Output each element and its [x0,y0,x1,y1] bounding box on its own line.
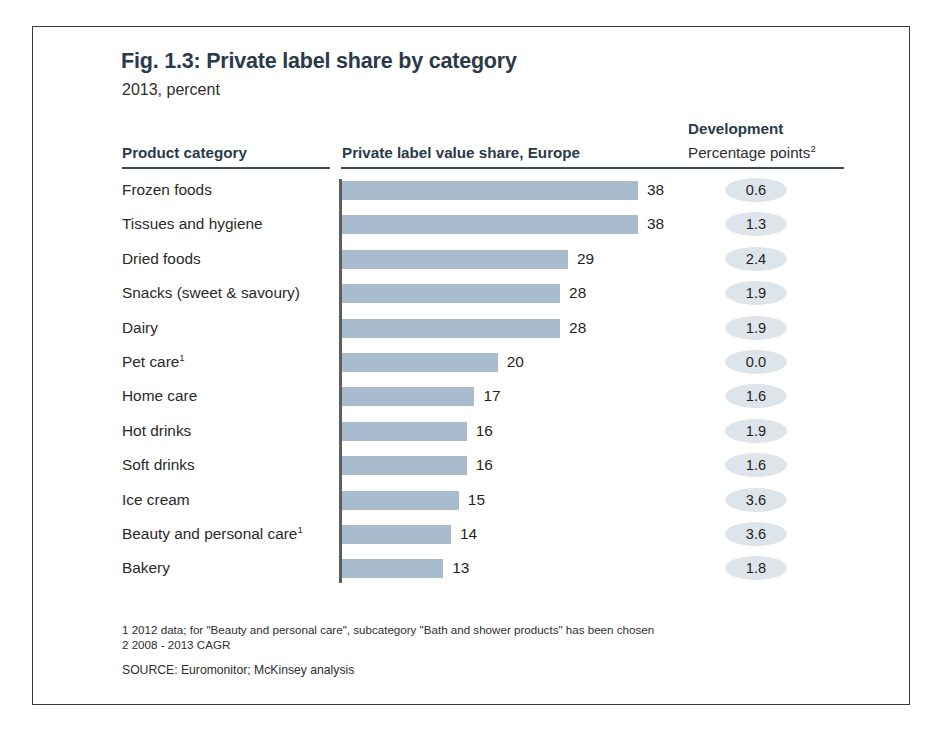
value-bar [342,491,459,510]
bar-value-label: 13 [452,559,469,577]
bar-value-label: 14 [460,525,477,543]
value-bar [342,250,568,269]
development-badge: 1.6 [725,453,787,477]
value-bar [342,215,638,234]
chart-row: Frozen foods380.6 [33,175,911,209]
value-bar [342,422,467,441]
value-bar [342,525,451,544]
category-label: Bakery [122,559,170,577]
value-bar [342,456,467,475]
chart-row: Pet care1200.0 [33,347,911,381]
category-label: Frozen foods [122,181,212,199]
chart-row: Dried foods292.4 [33,244,911,278]
value-bar [342,353,498,372]
bar-value-label: 28 [569,319,586,337]
chart-row: Snacks (sweet & savoury)281.9 [33,278,911,312]
chart-row: Tissues and hygiene381.3 [33,209,911,243]
development-badge: 1.9 [725,419,787,443]
chart-row: Hot drinks161.9 [33,416,911,450]
category-label: Hot drinks [122,422,191,440]
development-badge: 3.6 [725,522,787,546]
development-badge: 0.0 [725,350,787,374]
source-line: SOURCE: Euromonitor; McKinsey analysis [122,663,822,677]
bar-value-label: 20 [507,353,524,371]
bar-value-label: 29 [577,250,594,268]
development-badge: 1.3 [725,212,787,236]
development-badge: 3.6 [725,488,787,512]
category-label: Dried foods [122,250,201,268]
category-label: Dairy [122,319,158,337]
page-title: Fig. 1.3: Private label share by categor… [121,49,517,74]
column-subheader-text: Percentage points [688,144,810,161]
header-rule-bars [341,167,691,169]
category-label: Soft drinks [122,456,195,474]
category-label: Home care [122,387,197,405]
value-bar [342,181,638,200]
category-label: Pet care1 [122,353,185,371]
column-header-category: Product category [122,144,247,161]
development-badge: 0.6 [725,178,787,202]
development-badge: 1.8 [725,556,787,580]
bar-value-label: 38 [647,215,664,233]
category-label: Beauty and personal care1 [122,525,303,543]
bar-value-label: 16 [476,422,493,440]
development-badge: 1.9 [725,281,787,305]
chart-row: Dairy281.9 [33,313,911,347]
chart-row: Ice cream153.6 [33,485,911,519]
footnote-2: 2 2008 - 2013 CAGR [122,637,822,652]
bar-value-label: 28 [569,284,586,302]
column-subheader-percentage-points: Percentage points2 [688,144,816,161]
column-header-bars: Private label value share, Europe [342,144,580,161]
category-label: Tissues and hygiene [122,215,263,233]
footnotes-block: 1 2012 data; for "Beauty and personal ca… [122,622,822,677]
category-footnote-marker: 1 [297,524,302,535]
development-badge: 1.9 [725,316,787,340]
chart-row: Bakery131.8 [33,553,911,587]
category-label: Ice cream [122,491,190,509]
bar-value-label: 38 [647,181,664,199]
development-badge: 2.4 [725,247,787,271]
value-bar [342,284,560,303]
bar-value-label: 16 [476,456,493,474]
header-rule-development [688,167,844,169]
value-bar [342,559,443,578]
development-badge: 1.6 [725,384,787,408]
chart-row: Soft drinks161.6 [33,450,911,484]
header-rule-category [122,167,330,169]
footnote-1: 1 2012 data; for "Beauty and personal ca… [122,622,822,637]
value-bar [342,387,474,406]
chart-row: Beauty and personal care1143.6 [33,519,911,553]
category-footnote-marker: 1 [179,352,184,363]
chart-row: Home care171.6 [33,381,911,415]
chart-subtitle: 2013, percent [122,81,220,99]
bar-chart-plot-area: Frozen foods380.6Tissues and hygiene381.… [33,175,911,595]
column-header-development: Development [688,120,783,137]
slide-frame: Fig. 1.3: Private label share by categor… [32,26,910,705]
value-bar [342,319,560,338]
bar-value-label: 15 [468,491,485,509]
category-label: Snacks (sweet & savoury) [122,284,300,302]
bar-value-label: 17 [483,387,500,405]
column-subheader-footnote-marker: 2 [810,143,815,154]
